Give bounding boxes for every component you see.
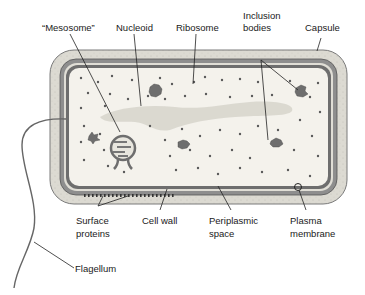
label-periplasmic-space-2: space: [209, 228, 234, 240]
label-periplasmic-space-1: Periplasmic: [209, 215, 258, 227]
label-inclusion-bodies-2: bodies: [243, 22, 271, 34]
label-ribosome: Ribosome: [176, 22, 219, 34]
label-cell-wall: Cell wall: [142, 215, 177, 227]
bacterial-cell-diagram: [0, 0, 365, 295]
surface-proteins: [84, 194, 174, 197]
label-surface-proteins-1: Surface: [76, 215, 109, 227]
label-capsule: Capsule: [305, 22, 340, 34]
label-nucleoid: Nucleoid: [116, 22, 153, 34]
label-plasma-membrane-2: membrane: [290, 228, 335, 240]
label-inclusion-bodies-1: Inclusion: [243, 10, 281, 22]
label-surface-proteins-2: proteins: [76, 228, 110, 240]
label-plasma-membrane-1: Plasma: [290, 215, 322, 227]
label-flagellum: Flagellum: [75, 263, 116, 275]
label-mesosome: “Mesosome”: [42, 22, 95, 34]
